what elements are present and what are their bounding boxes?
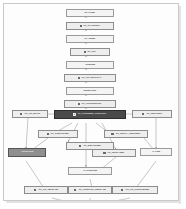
node-st-confirmed[interactable]: ST_CONFIRMED <box>38 130 78 138</box>
node-label: ST_PO_RELEASE <box>38 189 58 191</box>
state-icon <box>111 133 114 136</box>
node-cancelled[interactable]: CANCELLED <box>68 167 112 175</box>
state-icon <box>74 189 77 192</box>
node-label: PLANNED <box>85 38 96 40</box>
node-label: ST_CONFIRMED <box>51 133 69 135</box>
state-icon <box>142 113 145 116</box>
state-icon <box>78 103 81 106</box>
state-icon <box>84 51 87 54</box>
node-label: ST_TRANSMITTAL <box>82 77 102 79</box>
node-label: STARTED <box>85 12 96 14</box>
state-icon <box>47 133 50 136</box>
node-st-po-completed[interactable]: ST_PO_COMPLETED <box>112 186 158 194</box>
node-st-planning[interactable]: ST_PLANNING <box>66 22 114 30</box>
node-label: ST_PO_COMPLETED <box>125 189 148 191</box>
node-label: ST_REQUEST <box>146 113 161 115</box>
node-label: QUEUED <box>85 64 95 66</box>
node-label: ST_RETRY_REQUEST <box>116 133 141 135</box>
node-reserved[interactable]: RESERVED <box>66 87 114 95</box>
node-label: RESERVED <box>84 90 97 92</box>
node-st-po-build[interactable]: ST_PO_BUILD <box>12 110 48 118</box>
node-label: ST_PO_BUILD <box>24 113 40 115</box>
node-label: ST_PROCESSING <box>82 103 102 105</box>
node-planned[interactable]: PLANNED <box>66 35 114 43</box>
node-label: ST_RELEASED <box>108 152 125 154</box>
node-label: ST_DELIVERED <box>83 145 100 147</box>
panel-shadow-right <box>179 6 181 204</box>
panel-shadow-bottom <box>6 201 181 203</box>
node-label: ST_CONFIRM_RELEASE <box>78 189 105 191</box>
node-st-processing[interactable]: ST_PROCESSING <box>64 100 116 108</box>
state-icon <box>80 25 83 28</box>
node-failed[interactable]: FAILED <box>140 148 172 156</box>
node-rejected[interactable]: REJECTED <box>8 148 46 157</box>
node-started[interactable]: STARTED <box>66 9 114 17</box>
diagram-panel[interactable]: STARTED ST_PLANNING PLANNED ST_INIT QUEU… <box>3 3 179 201</box>
state-icon <box>79 145 82 148</box>
node-st-released[interactable]: ST_RELEASED <box>92 149 136 157</box>
node-label: REJECTED <box>21 151 33 153</box>
node-st-request[interactable]: ST_REQUEST <box>132 110 172 118</box>
node-label: FAILED <box>152 151 160 153</box>
graph-layer: STARTED ST_PLANNING PLANNED ST_INIT QUEU… <box>4 4 179 201</box>
state-icon <box>121 189 124 192</box>
diagram-viewport: STARTED ST_PLANNING PLANNED ST_INIT QUEU… <box>0 0 186 209</box>
state-icon <box>34 189 37 192</box>
state-icon <box>20 113 23 116</box>
node-st-proceed-control-selected[interactable]: ST_PROCEED_CONTROL <box>54 110 126 119</box>
node-st-transmittal[interactable]: ST_TRANSMITTAL <box>64 74 116 82</box>
node-label: ST_PLANNING <box>84 25 100 27</box>
state-icon <box>103 152 106 155</box>
state-icon <box>78 77 81 80</box>
node-st-po-release[interactable]: ST_PO_RELEASE <box>24 186 68 194</box>
node-st-confirm-release[interactable]: ST_CONFIRM_RELEASE <box>68 186 112 194</box>
node-label: ST_INIT <box>88 51 97 53</box>
node-st-retry-request[interactable]: ST_RETRY_REQUEST <box>104 130 148 138</box>
node-queued[interactable]: QUEUED <box>66 61 114 69</box>
node-label: ST_PROCEED_CONTROL <box>78 113 106 115</box>
state-icon <box>73 113 76 116</box>
node-label: CANCELLED <box>83 170 97 172</box>
node-st-init[interactable]: ST_INIT <box>70 48 110 56</box>
